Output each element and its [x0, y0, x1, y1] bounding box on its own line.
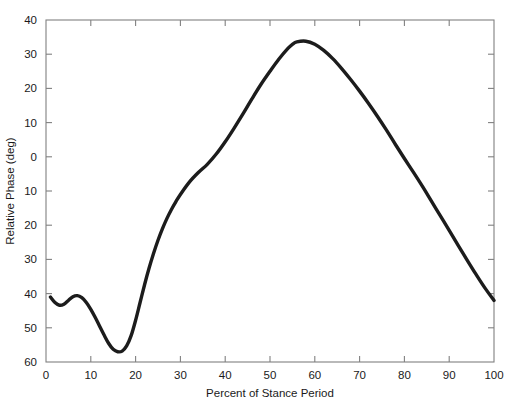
x-tick-label: 40 [219, 369, 232, 381]
y-tick-label: 30 [24, 253, 37, 265]
y-tick-label: 40 [24, 288, 37, 300]
x-tick-label: 90 [443, 369, 456, 381]
x-tick-label: 80 [398, 369, 411, 381]
relative-phase-line-chart: 403020100102030405060 010203040506070809… [0, 0, 513, 407]
y-tick-label: 40 [24, 14, 37, 26]
x-tick-label: 70 [353, 369, 366, 381]
data-series-line [50, 41, 494, 352]
y-tick-label: 0 [31, 151, 37, 163]
y-tick-label: 20 [24, 82, 37, 94]
y-tick-label: 10 [24, 185, 37, 197]
y-tick-label: 20 [24, 219, 37, 231]
x-tick-label: 0 [43, 369, 49, 381]
y-tick-label: 60 [24, 356, 37, 368]
x-tick-label: 60 [308, 369, 321, 381]
y-tick-label: 50 [24, 322, 37, 334]
x-axis-title: Percent of Stance Period [206, 387, 334, 399]
x-tick-label: 100 [484, 369, 503, 381]
y-axis-title: Relative Phase (deg) [4, 137, 16, 245]
x-tick-label: 20 [129, 369, 142, 381]
x-axis-ticks: 0102030405060708090100 [43, 20, 504, 381]
chart-figure: 403020100102030405060 010203040506070809… [0, 0, 513, 407]
y-tick-label: 30 [24, 48, 37, 60]
x-tick-label: 30 [174, 369, 187, 381]
y-tick-label: 10 [24, 117, 37, 129]
x-tick-label: 10 [84, 369, 97, 381]
x-tick-label: 50 [264, 369, 277, 381]
